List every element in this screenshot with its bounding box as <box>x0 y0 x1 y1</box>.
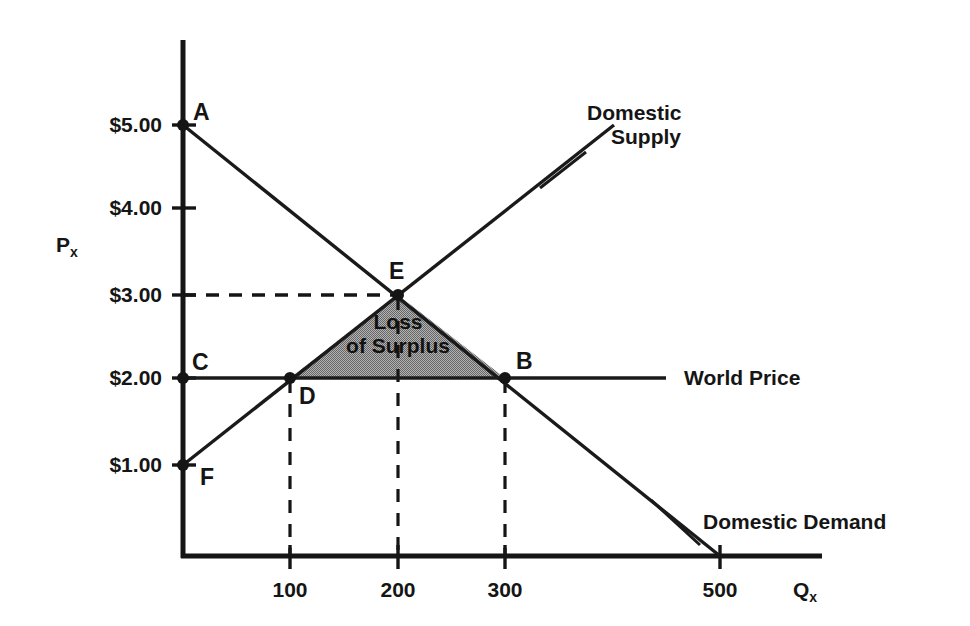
point-label-E: E <box>389 259 404 285</box>
y-tick-label-4: $4.00 <box>62 196 162 220</box>
point-label-B: B <box>516 349 533 375</box>
y-tick-label-1: $1.00 <box>62 453 162 477</box>
point-C-marker <box>177 372 189 384</box>
point-label-D: D <box>299 384 316 410</box>
domestic-supply-label-line1: Domestic <box>587 101 682 124</box>
y-axis-title-subscript: x <box>70 244 78 260</box>
point-D-marker <box>284 372 296 384</box>
point-A-marker <box>177 119 189 131</box>
point-label-C: C <box>192 350 209 376</box>
y-axis-title: Px <box>56 233 78 261</box>
economics-diagram: $5.00 $4.00 $3.00 $2.00 $1.00 100 200 30… <box>0 0 970 626</box>
x-axis-title-base: Q <box>793 578 809 601</box>
y-axis-title-base: P <box>56 233 70 256</box>
loss-of-surplus-label-line1: Loss <box>373 310 422 333</box>
loss-of-surplus-label: Lossof Surplus <box>318 310 478 357</box>
y-tick-label-2: $2.00 <box>62 366 162 390</box>
x-tick-label-100: 100 <box>250 578 330 602</box>
point-label-F: F <box>200 465 214 491</box>
domestic-supply-label: DomesticSupply <box>587 101 682 148</box>
x-tick-label-300: 300 <box>465 578 545 602</box>
world-price-label: World Price <box>684 366 800 390</box>
x-tick-label-500: 500 <box>680 578 760 602</box>
y-tick-label-5: $5.00 <box>62 113 162 137</box>
loss-of-surplus-label-line2: of Surplus <box>346 334 450 357</box>
y-tick-label-3: $3.00 <box>62 283 162 307</box>
x-tick-label-200: 200 <box>358 578 438 602</box>
demand-label-leader <box>651 500 700 545</box>
x-axis-title-subscript: x <box>809 589 817 605</box>
x-axis-title: Qx <box>793 578 817 606</box>
point-B-marker <box>499 372 511 384</box>
supply-label-leader <box>540 152 586 188</box>
domestic-supply-label-line2: Supply <box>611 125 681 149</box>
point-F-marker <box>177 459 189 471</box>
point-E-marker <box>392 289 404 301</box>
point-label-A: A <box>193 100 210 126</box>
domestic-demand-label: Domestic Demand <box>703 510 886 534</box>
